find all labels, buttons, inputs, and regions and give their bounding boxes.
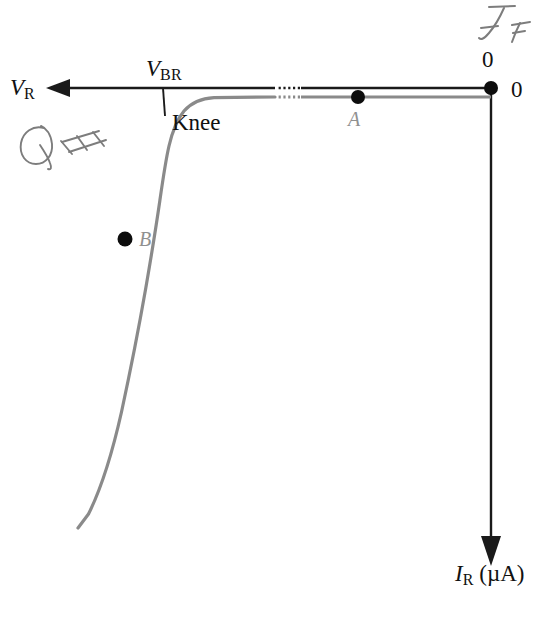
figure-canvas: VR IR (µA) VBR Knee A B 0 0 <box>0 0 545 625</box>
origin-zero-label-top: 0 <box>482 48 494 71</box>
characteristic-curve-plot <box>0 0 545 625</box>
knee-label: Knee <box>172 111 221 134</box>
handwritten-quadrant-mark <box>21 126 106 169</box>
breakdown-voltage-label-subscript: BR <box>160 66 182 83</box>
point-b-label: B <box>139 229 151 249</box>
origin-point-marker <box>484 81 498 95</box>
horizontal-axis-label: VR <box>10 76 35 102</box>
reverse-characteristic-curve <box>78 97 491 528</box>
vbr-tick-mark <box>163 88 165 116</box>
origin-zero-label-right: 0 <box>511 78 523 101</box>
vertical-axis-label: IR (µA) <box>455 562 524 588</box>
breakdown-voltage-label: VBR <box>146 57 182 83</box>
vertical-axis-label-subscript: R <box>463 571 474 588</box>
point-b-marker <box>118 232 133 247</box>
handwritten-forward-current-mark <box>479 6 530 42</box>
axis-arrow-left-icon <box>46 79 70 97</box>
vertical-axis-unit-text: (µA) <box>479 561 524 586</box>
horizontal-axis-label-subscript: R <box>24 85 35 102</box>
point-a-marker <box>351 90 365 104</box>
point-a-label: A <box>348 109 360 129</box>
